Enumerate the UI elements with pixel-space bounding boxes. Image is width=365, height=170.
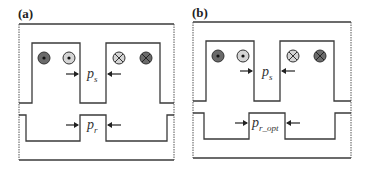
machine-diagram	[182, 0, 365, 170]
arrow-left-icon	[107, 122, 121, 128]
coil-cross-dark-icon	[314, 50, 326, 62]
rotor-pitch-label: pr_opt	[252, 115, 279, 133]
panel-b: (b) ps pr_opt	[182, 0, 365, 170]
arrow-right-icon	[240, 68, 253, 74]
arrow-left-icon	[286, 120, 300, 126]
arrow-left-icon	[107, 71, 121, 77]
coil-dot-light-icon	[237, 50, 249, 62]
coil-cross-dark-icon	[140, 52, 152, 64]
stator-pitch-label: ps	[262, 64, 273, 82]
coil-cross-light-icon	[287, 50, 299, 62]
arrow-right-icon	[66, 71, 79, 77]
arrow-left-icon	[281, 68, 295, 74]
coil-dot-dark-icon	[38, 52, 50, 64]
stator-pitch-label: ps	[87, 66, 98, 84]
arrow-right-icon	[66, 122, 79, 128]
panel-a: (a) ps pr	[0, 0, 182, 170]
coil-cross-light-icon	[113, 52, 125, 64]
arrow-right-icon	[235, 120, 248, 126]
coil-dot-light-icon	[63, 52, 75, 64]
coil-dot-dark-icon	[212, 50, 224, 62]
rotor-pitch-label: pr	[87, 117, 98, 135]
machine-diagram	[0, 0, 182, 170]
